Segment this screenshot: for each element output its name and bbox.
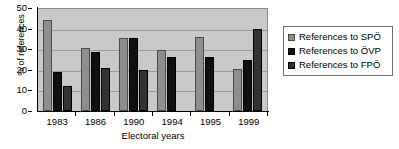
y-tick-mark bbox=[28, 29, 32, 30]
legend-label: References to SPÖ bbox=[299, 32, 381, 42]
x-tick-group: 1983 bbox=[38, 112, 76, 128]
y-tick-label: 10 bbox=[16, 86, 27, 96]
x-tick-label: 1995 bbox=[200, 116, 221, 127]
bar-1983-series-3 bbox=[63, 86, 72, 111]
legend-item-3: References to FPÖ bbox=[288, 58, 389, 72]
bar-group-1983 bbox=[38, 9, 76, 111]
bar-1999-series-3 bbox=[253, 29, 262, 111]
bar-1986-series-3 bbox=[101, 68, 110, 111]
bar-1995-series-2 bbox=[205, 57, 214, 111]
legend-label: References to FPÖ bbox=[299, 60, 380, 70]
y-tick-label: 0 bbox=[22, 106, 27, 116]
legend-item-2: References to ÖVP bbox=[288, 44, 389, 58]
x-tick-label: 1983 bbox=[47, 116, 68, 127]
bar-group-1990 bbox=[114, 9, 152, 111]
bar-chart-figure: % of references 01020304050 198319861990… bbox=[0, 0, 399, 149]
bar-1999-series-2 bbox=[243, 60, 252, 112]
y-tick-mark bbox=[28, 70, 32, 71]
y-tick-label: 20 bbox=[16, 65, 27, 75]
plot-area bbox=[38, 8, 268, 111]
x-tick-group: 1986 bbox=[76, 112, 114, 128]
bar-group-1986 bbox=[76, 9, 114, 111]
x-tick-group: 1994 bbox=[153, 112, 191, 128]
bar-group-1995 bbox=[191, 9, 229, 111]
x-tick-group: 1995 bbox=[191, 112, 229, 128]
x-tick-label: 1994 bbox=[162, 116, 183, 127]
y-tick-label: 40 bbox=[16, 24, 27, 34]
bar-group-1994 bbox=[153, 9, 191, 111]
legend-swatch-icon bbox=[288, 48, 295, 55]
bar-1990-series-2 bbox=[129, 38, 138, 111]
x-tick-group: 1990 bbox=[115, 112, 153, 128]
legend-item-1: References to SPÖ bbox=[288, 30, 389, 44]
bar-1999-series-1 bbox=[233, 69, 242, 111]
y-tick-label: 50 bbox=[16, 3, 27, 13]
bar-1983-series-1 bbox=[43, 20, 52, 111]
y-tick-mark bbox=[28, 8, 32, 9]
bar-1990-series-3 bbox=[139, 70, 148, 111]
x-tick-group: 1999 bbox=[230, 112, 268, 128]
x-axis-title: Electoral years bbox=[38, 130, 268, 141]
legend-swatch-icon bbox=[288, 62, 295, 69]
bar-1994-series-2 bbox=[167, 57, 176, 111]
y-tick-mark bbox=[28, 49, 32, 50]
x-axis-tick-labels: 198319861990199419951999 bbox=[38, 112, 268, 128]
bar-1986-series-1 bbox=[81, 48, 90, 111]
y-tick-mark bbox=[28, 111, 32, 112]
legend-swatch-icon bbox=[288, 34, 295, 41]
bar-1986-series-2 bbox=[91, 52, 100, 111]
x-tick-label: 1986 bbox=[85, 116, 106, 127]
bar-1983-series-2 bbox=[53, 72, 62, 111]
bar-groups bbox=[38, 9, 267, 111]
x-tick-mark bbox=[267, 112, 268, 116]
bar-1995-series-1 bbox=[195, 37, 204, 111]
y-axis-tick-labels: 01020304050 bbox=[8, 8, 30, 111]
x-tick-label: 1990 bbox=[123, 116, 144, 127]
chart-legend: References to SPÖReferences to ÖVPRefere… bbox=[283, 26, 393, 76]
legend-label: References to ÖVP bbox=[299, 46, 381, 56]
bar-1990-series-1 bbox=[119, 38, 128, 111]
y-tick-label: 30 bbox=[16, 44, 27, 54]
bar-group-1999 bbox=[229, 9, 267, 111]
bar-1994-series-1 bbox=[157, 50, 166, 111]
x-tick-label: 1999 bbox=[238, 116, 259, 127]
y-tick-mark bbox=[28, 90, 32, 91]
